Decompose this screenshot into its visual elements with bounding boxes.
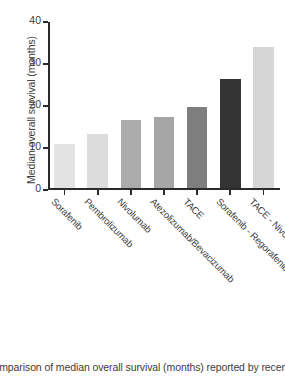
x-axis-category-label: Sorafenib - Regorafenib (sequence) bbox=[215, 196, 285, 308]
bar-chart-figure: Median overall survival (months) 0102030… bbox=[0, 0, 285, 380]
bar bbox=[87, 134, 108, 188]
y-axis-tick: 30 bbox=[43, 63, 48, 65]
x-axis-category-label: Sorafenib bbox=[49, 196, 85, 232]
figure-caption: Comparison of median overall survival (m… bbox=[0, 361, 285, 373]
bar bbox=[187, 107, 208, 188]
bar bbox=[54, 144, 75, 188]
bar bbox=[220, 79, 241, 188]
plot-area: 010203040 bbox=[48, 18, 280, 190]
y-axis-tick: 20 bbox=[43, 105, 48, 107]
bar bbox=[253, 47, 274, 188]
x-axis-category-label: TACE bbox=[181, 196, 206, 221]
y-axis-tick-label: 40 bbox=[29, 14, 41, 26]
y-axis-tick: 10 bbox=[43, 147, 48, 149]
y-axis-line bbox=[48, 22, 50, 190]
x-axis-label-group: SorafenibPembrolizumabNivolumabAtezolizu… bbox=[48, 190, 285, 350]
y-axis-tick-label: 20 bbox=[29, 98, 41, 110]
bar bbox=[154, 117, 175, 188]
y-axis-tick-label: 10 bbox=[29, 140, 41, 152]
bar bbox=[121, 120, 142, 188]
y-axis-tick: 40 bbox=[43, 21, 48, 23]
y-axis-tick-label: 30 bbox=[29, 56, 41, 68]
y-axis-tick-label: 0 bbox=[35, 182, 41, 194]
